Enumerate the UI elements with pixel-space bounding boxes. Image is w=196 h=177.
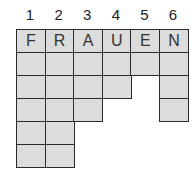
empty-cell[interactable] — [159, 52, 189, 76]
empty-cell[interactable] — [16, 75, 46, 99]
column-number: 2 — [45, 6, 73, 23]
empty-cell[interactable] — [45, 75, 75, 99]
column-number: 5 — [130, 6, 158, 23]
column-number: 3 — [73, 6, 101, 23]
column-number: 4 — [102, 6, 130, 23]
empty-cell[interactable] — [102, 75, 132, 99]
empty-cell[interactable] — [45, 121, 75, 145]
empty-cell[interactable] — [73, 98, 103, 122]
empty-cell[interactable] — [130, 52, 160, 76]
empty-cell[interactable] — [16, 52, 46, 76]
empty-cell[interactable] — [45, 98, 75, 122]
empty-cell[interactable] — [16, 144, 46, 168]
empty-cell[interactable] — [16, 98, 46, 122]
column-number: 6 — [159, 6, 187, 23]
empty-cell[interactable] — [159, 98, 189, 122]
empty-cell[interactable] — [73, 75, 103, 99]
empty-cell[interactable] — [45, 144, 75, 168]
column-number: 1 — [16, 6, 44, 23]
letter-cell: A — [73, 29, 103, 53]
letter-cell: E — [130, 29, 160, 53]
letter-cell: F — [16, 29, 46, 53]
letter-cell: R — [45, 29, 75, 53]
empty-cell[interactable] — [73, 52, 103, 76]
empty-cell[interactable] — [159, 75, 189, 99]
empty-cell[interactable] — [45, 52, 75, 76]
letter-cell: N — [159, 29, 189, 53]
empty-cell[interactable] — [16, 121, 46, 145]
empty-cell[interactable] — [102, 52, 132, 76]
letter-cell: U — [102, 29, 132, 53]
